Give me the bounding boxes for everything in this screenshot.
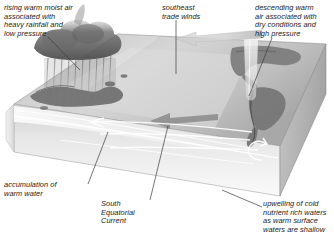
annotation-southeast-trade-winds: southeast trade winds <box>162 4 230 21</box>
annotation-south-equatorial-current: South Equatorial Current <box>101 200 147 226</box>
diagram-canvas: rising warm moist air associated with he… <box>0 0 334 241</box>
leader-line-upwelling <box>222 190 262 207</box>
block-left-wedge <box>6 104 14 152</box>
annotation-rising-warm-moist-air: rising warm moist air associated with he… <box>4 4 100 38</box>
annotation-accumulation-of-warm-water: accumulation of warm water <box>4 181 88 198</box>
annotation-upwelling-cold-nutrient-rich-waters: upwelling of cold nutrient rich waters a… <box>263 200 334 234</box>
descending-air-column <box>244 30 258 101</box>
annotation-descending-warm-air: descending warm air associated with dry … <box>255 4 333 38</box>
